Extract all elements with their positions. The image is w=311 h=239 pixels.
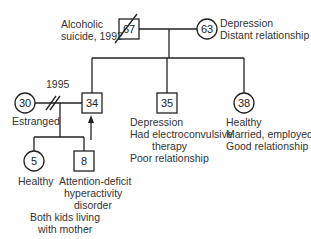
grandchildren-note-line1: Both kids living <box>30 211 100 223</box>
note-67-line2: suicide, 1992 <box>61 30 123 42</box>
note-67-line1: Alcoholic <box>61 18 103 30</box>
age-35: 35 <box>157 97 177 109</box>
note-35-line1: Depression <box>130 116 183 128</box>
note-35-line2: Had electroconvulsive <box>130 128 233 140</box>
note-38-line3: Good relationship <box>226 140 308 152</box>
age-63: 63 <box>197 23 217 35</box>
age-34: 34 <box>82 97 102 109</box>
age-30: 30 <box>15 97 35 109</box>
note-8-line1: Attention-deficit <box>59 175 131 187</box>
note-38-line2: Married, employed <box>226 128 311 140</box>
note-63-line2: Distant relationship <box>220 29 309 41</box>
note-38-line1: Healthy <box>226 116 262 128</box>
note-35-line3: therapy <box>152 140 187 152</box>
age-8: 8 <box>74 155 94 167</box>
arrow-head-icon <box>88 115 94 123</box>
note-63-line1: Depression <box>220 17 273 29</box>
divorce-year: 1995 <box>46 78 69 90</box>
age-5: 5 <box>24 155 44 167</box>
age-38: 38 <box>234 97 254 109</box>
note-8-line2: hyperactivity <box>64 187 122 199</box>
note-8-line3: disorder <box>74 199 112 211</box>
note-35-line4: Poor relationship <box>130 152 209 164</box>
note-5: Healthy <box>18 175 54 187</box>
grandchildren-note-line2: with mother <box>38 223 92 235</box>
note-30: Estranged <box>12 115 60 127</box>
